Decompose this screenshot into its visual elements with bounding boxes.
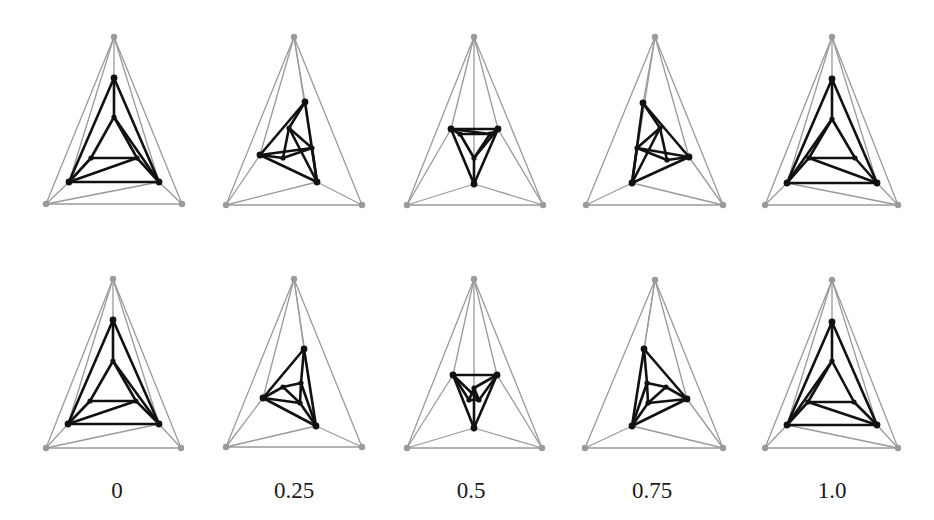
outer-node [223, 202, 229, 208]
innermost-node [309, 145, 314, 150]
connector-edge [46, 424, 159, 448]
morph-diagram [0, 0, 934, 520]
top-row-frame-0 [43, 34, 185, 207]
inner-node [314, 179, 321, 186]
innermost-node [280, 384, 285, 389]
outer-node [43, 201, 49, 207]
outer-node [179, 201, 185, 207]
innermost-node [466, 397, 471, 402]
inner-edge [304, 349, 316, 426]
inner-edge [632, 157, 689, 183]
innermost-node [657, 125, 662, 130]
outer-node [539, 445, 545, 451]
connector-edge [260, 37, 294, 155]
top-row-frame-1.0 [762, 34, 901, 208]
outer-node [291, 34, 297, 40]
outer-edge [114, 37, 182, 204]
outer-node [652, 277, 658, 283]
innermost-node [286, 125, 291, 130]
connector-edge [765, 425, 787, 448]
innermost-node [110, 358, 115, 363]
outer-edge [474, 279, 542, 448]
label-t05: 0.5 [457, 478, 486, 504]
connector-edge [765, 183, 787, 205]
outer-edge [407, 37, 474, 205]
outer-node [895, 445, 901, 451]
outer-node [359, 202, 365, 208]
inner-node [874, 422, 881, 429]
inner-node [784, 422, 791, 429]
inner-edge [301, 349, 304, 383]
outer-edge [294, 37, 362, 205]
innermost-node [476, 397, 481, 402]
inner-node [829, 76, 836, 83]
inner-node [450, 372, 457, 379]
innermost-node [829, 116, 834, 121]
innermost-node [829, 358, 834, 363]
outer-node [404, 445, 410, 451]
outer-edge [226, 279, 294, 447]
outer-node [223, 444, 229, 450]
outer-node [895, 202, 901, 208]
outer-node [291, 276, 297, 282]
label-t025: 0.25 [274, 478, 314, 504]
connector-edge [159, 424, 181, 448]
innermost-node [806, 155, 811, 160]
inner-node [110, 317, 117, 324]
innermost-node [645, 400, 650, 405]
outer-node [111, 34, 117, 40]
connector-edge [787, 425, 898, 448]
inner-edge [283, 383, 301, 387]
innermost-node [634, 145, 639, 150]
inner-node [156, 179, 163, 186]
inner-node [829, 319, 836, 326]
innermost-node [471, 155, 476, 160]
outer-node [829, 34, 835, 40]
inner-edge [474, 129, 498, 184]
outer-node [582, 445, 588, 451]
inner-node [65, 421, 72, 428]
outer-edge [832, 280, 898, 448]
outer-edge [655, 280, 723, 448]
innermost-node [805, 399, 810, 404]
top-row-frame-0.25 [223, 34, 365, 208]
inner-edge [260, 155, 317, 182]
top-row-frame-0.5 [404, 34, 546, 208]
inner-edge [643, 103, 660, 128]
innermost-node [280, 155, 285, 160]
outer-node [178, 445, 184, 451]
connector-edge [317, 182, 362, 205]
inner-node [313, 423, 320, 430]
inner-node [495, 126, 502, 133]
innermost-node [111, 114, 116, 119]
innermost-node [457, 131, 462, 136]
outer-node [471, 34, 477, 40]
inner-node [640, 100, 647, 107]
inner-node [448, 126, 455, 133]
inner-node [302, 99, 309, 106]
outer-node [720, 202, 726, 208]
outer-node [404, 202, 410, 208]
inner-node [629, 180, 636, 187]
innermost-node [471, 385, 476, 390]
innermost-node [133, 398, 138, 403]
outer-node [540, 202, 546, 208]
outer-node [652, 34, 658, 40]
inner-edge [632, 349, 644, 426]
outer-edge [655, 37, 723, 205]
inner-node [111, 75, 118, 82]
connector-edge [586, 183, 632, 205]
inner-edge [289, 102, 305, 128]
top-row-frame-0.75 [583, 34, 726, 208]
inner-node [260, 395, 267, 402]
innermost-node [297, 400, 302, 405]
outer-node [583, 202, 589, 208]
inner-node [784, 180, 791, 187]
bottom-row-frame-0.75 [582, 277, 726, 451]
innermost-node [487, 131, 492, 136]
inner-node [471, 425, 478, 432]
outer-node [762, 202, 768, 208]
connector-edge [451, 37, 474, 129]
inner-node [686, 154, 693, 161]
connector-edge [407, 375, 453, 448]
